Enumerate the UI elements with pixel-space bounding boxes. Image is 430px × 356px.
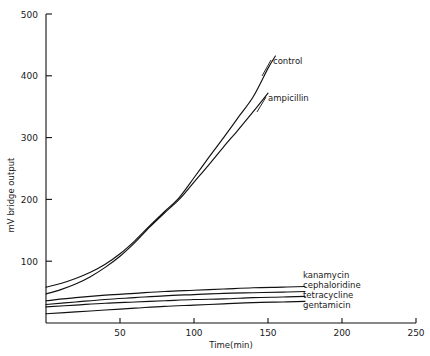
y-tick-label-500: 500	[21, 10, 38, 20]
curve-kanamycin	[46, 287, 305, 301]
x-tick-label-100: 100	[185, 328, 202, 338]
series-label-kanamycin: kanamycin	[303, 270, 349, 280]
x-axis-tick-labels: 50100150200250	[114, 328, 425, 338]
leader-line-control	[262, 60, 271, 76]
x-tick-label-50: 50	[114, 328, 126, 338]
x-tick-label-250: 250	[407, 328, 424, 338]
series-curves	[46, 56, 305, 314]
series-label-tetracycline: tetracycline	[303, 290, 353, 300]
chart-container: 100200300400500 50100150200250 Time(min)…	[0, 0, 430, 356]
y-axis-ticks	[46, 14, 52, 261]
x-axis-ticks	[120, 318, 416, 323]
y-tick-label-400: 400	[21, 71, 38, 81]
y-tick-label-300: 300	[21, 133, 38, 143]
line-chart: 100200300400500 50100150200250 Time(min)…	[0, 0, 430, 356]
x-tick-label-200: 200	[333, 328, 350, 338]
x-tick-label-150: 150	[259, 328, 276, 338]
x-axis-title: Time(min)	[208, 340, 252, 350]
curve-gentamicin	[46, 301, 305, 313]
y-tick-label-200: 200	[21, 195, 38, 205]
series-label-ampicillin: ampicillin	[268, 93, 309, 103]
y-axis-tick-labels: 100200300400500	[21, 10, 38, 267]
series-label-control: control	[273, 56, 302, 66]
series-label-cephaloridine: cephaloridine	[303, 280, 361, 290]
series-label-gentamicin: gentamicin	[303, 300, 351, 310]
y-tick-label-100: 100	[21, 257, 38, 267]
y-axis-title: mV bridge output	[6, 157, 16, 232]
curve-control	[46, 56, 275, 287]
